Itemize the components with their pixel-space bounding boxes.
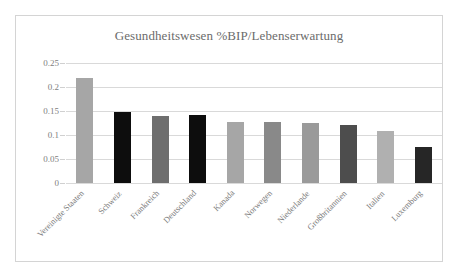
y-axis-tick-label: 0.1	[48, 130, 59, 140]
y-axis-tick-mark	[60, 159, 65, 160]
chart-title: Gesundheitswesen %BIP/Lebenserwartung	[16, 28, 442, 44]
y-axis-tick-mark	[60, 111, 65, 112]
x-axis-tick-label: Norwegen	[242, 188, 274, 220]
bar	[415, 147, 432, 183]
bar	[340, 125, 357, 183]
x-axis-tick-label: Vereinigte Staaten	[35, 188, 86, 239]
bar	[302, 123, 319, 183]
y-axis-tick-mark	[60, 63, 65, 64]
x-axis-tick-label: Schweiz	[96, 188, 123, 215]
bar	[227, 122, 244, 183]
x-axis-tick-label: Niederlande	[275, 188, 311, 224]
y-axis-tick-label: 0.15	[43, 106, 59, 116]
x-axis-tick-label: Deutschland	[161, 188, 198, 225]
y-axis-tick-label: 0.2	[48, 82, 59, 92]
gridline	[66, 183, 442, 184]
x-axis-tick-label: Frankreich	[128, 188, 161, 221]
bar	[152, 116, 169, 183]
x-axis-tick-label: Kanada	[211, 188, 236, 213]
bar	[114, 112, 131, 183]
bar	[377, 131, 394, 183]
y-axis-tick-mark	[60, 183, 65, 184]
y-axis-tick-label: 0.25	[43, 58, 59, 68]
x-axis-labels: Vereinigte StaatenSchweizFrankreichDeuts…	[16, 186, 442, 262]
x-axis-tick-label: Luxemburg	[389, 188, 424, 223]
gridline	[66, 87, 442, 88]
bar	[76, 78, 93, 183]
chart-frame: Gesundheitswesen %BIP/Lebenserwartung 0.…	[15, 15, 443, 262]
y-axis-tick-label: 0.05	[43, 154, 59, 164]
bar	[264, 122, 281, 183]
gridline	[66, 63, 442, 64]
bar	[189, 115, 206, 183]
y-axis-tick-mark	[60, 135, 65, 136]
plot-area	[66, 63, 442, 183]
x-axis-tick-label: Italien	[364, 188, 386, 210]
y-axis-labels: 0.250.20.150.10.050	[30, 63, 59, 183]
y-axis-tick-mark	[60, 87, 65, 88]
